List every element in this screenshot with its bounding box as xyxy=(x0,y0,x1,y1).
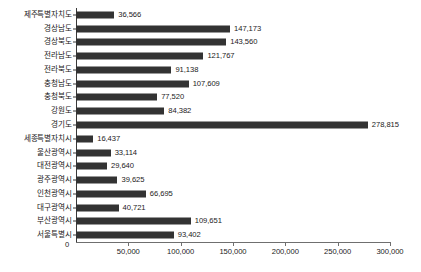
bar-value-label: 107,609 xyxy=(193,80,220,88)
bar-value-label: 147,173 xyxy=(234,25,261,33)
bar-value-label: 29,640 xyxy=(111,162,134,170)
category-label: 광주광역시 xyxy=(37,176,72,184)
plot-area: 제주특별자치도36,566경상남도147,173경상북도143,560전라남도1… xyxy=(76,8,390,242)
category-label: 제주특별자치도 xyxy=(24,11,72,19)
category-label: 울산광역시 xyxy=(37,149,72,157)
x-axis-tick xyxy=(285,242,286,246)
bar-value-label: 40,721 xyxy=(123,204,146,212)
bar-row: 전라남도121,767 xyxy=(76,49,390,63)
bar xyxy=(76,80,189,87)
bar-value-label: 109,651 xyxy=(195,218,222,226)
bar xyxy=(76,66,171,73)
category-label: 강원도 xyxy=(51,107,72,115)
bar-value-label: 84,382 xyxy=(168,107,191,115)
bar xyxy=(76,149,111,156)
bar xyxy=(76,232,174,239)
bar-value-label: 77,520 xyxy=(161,94,184,102)
category-label: 경기도 xyxy=(51,121,72,129)
x-axis-tick-label: 200,000 xyxy=(272,248,299,256)
bar xyxy=(76,25,230,32)
bar-row: 경기도278,815 xyxy=(76,118,390,132)
x-axis-tick-label: 100,000 xyxy=(167,248,194,256)
bar xyxy=(76,190,146,197)
bar-row: 세종특별자치시16,437 xyxy=(76,132,390,146)
category-label: 전라남도 xyxy=(44,52,72,60)
bar-value-label: 278,815 xyxy=(372,121,399,129)
category-label: 경상북도 xyxy=(44,39,72,47)
bar-row: 부산광역시109,651 xyxy=(76,214,390,228)
category-label: 충청북도 xyxy=(44,94,72,102)
x-axis-tick-label: 50,000 xyxy=(117,248,140,256)
bar xyxy=(76,218,191,225)
bar-row: 충청북도77,520 xyxy=(76,91,390,105)
bar-value-label: 39,625 xyxy=(121,176,144,184)
bar-row: 서울특별시93,402 xyxy=(76,228,390,242)
category-label: 서울특별시 xyxy=(37,231,72,239)
bar-row: 경상북도143,560 xyxy=(76,36,390,50)
x-axis-tick xyxy=(390,242,391,246)
x-axis-tick xyxy=(233,242,234,246)
bar xyxy=(76,177,117,184)
category-label: 대구광역시 xyxy=(37,204,72,212)
bar xyxy=(76,53,203,60)
bar-row: 제주특별자치도36,566 xyxy=(76,8,390,22)
x-axis-tick-label: 0 xyxy=(65,241,69,249)
category-label: 충청남도 xyxy=(44,80,72,88)
x-axis-tick xyxy=(128,242,129,246)
category-label: 인천광역시 xyxy=(37,190,72,198)
category-label: 부산광역시 xyxy=(37,218,72,226)
bar xyxy=(76,94,157,101)
bar-value-label: 143,560 xyxy=(230,39,257,47)
bar xyxy=(76,204,119,211)
bar-row: 대전광역시29,640 xyxy=(76,159,390,173)
bar-chart: 제주특별자치도36,566경상남도147,173경상북도143,560전라남도1… xyxy=(0,0,421,272)
bar xyxy=(76,11,114,18)
x-axis-tick-label: 300,000 xyxy=(376,248,403,256)
category-label: 세종특별자치시 xyxy=(24,135,72,143)
category-label: 경상남도 xyxy=(44,25,72,33)
x-axis-tick xyxy=(181,242,182,246)
bar-value-label: 93,402 xyxy=(178,231,201,239)
category-label: 전라북도 xyxy=(44,66,72,74)
x-axis-tick-label: 250,000 xyxy=(324,248,351,256)
bar xyxy=(76,163,107,170)
bar-row: 울산광역시33,114 xyxy=(76,146,390,160)
bar-row: 전라북도91,138 xyxy=(76,63,390,77)
category-label: 대전광역시 xyxy=(37,162,72,170)
bar-value-label: 36,566 xyxy=(118,11,141,19)
bar-row: 강원도84,382 xyxy=(76,104,390,118)
bar-value-label: 33,114 xyxy=(115,149,137,157)
bar-row: 인천광역시66,695 xyxy=(76,187,390,201)
bar-value-label: 16,437 xyxy=(97,135,120,143)
bar xyxy=(76,39,226,46)
bar-value-label: 121,767 xyxy=(207,52,234,60)
bar-value-label: 91,138 xyxy=(175,66,198,74)
bar-row: 충청남도107,609 xyxy=(76,77,390,91)
bar-row: 경상남도147,173 xyxy=(76,22,390,36)
bar xyxy=(76,121,368,128)
x-axis-tick-label: 150,000 xyxy=(219,248,246,256)
bar xyxy=(76,108,164,115)
bar-row: 대구광역시40,721 xyxy=(76,201,390,215)
bar xyxy=(76,135,93,142)
bar-value-label: 66,695 xyxy=(150,190,173,198)
bar-row: 광주광역시39,625 xyxy=(76,173,390,187)
x-axis-tick xyxy=(338,242,339,246)
